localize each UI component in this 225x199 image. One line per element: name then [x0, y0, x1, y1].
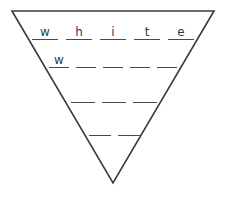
pyramid-row-3 [66, 85, 161, 103]
letter-slot[interactable]: t [134, 22, 160, 40]
slot-letter: e [177, 26, 184, 40]
letter-slot[interactable]: w [49, 50, 69, 68]
slot-letter: w [40, 26, 50, 40]
letter-slot[interactable] [157, 50, 177, 68]
letter-slot[interactable] [130, 50, 150, 68]
blank-line [134, 39, 160, 40]
slot-letter: w [54, 54, 64, 68]
pyramid-row-2: w [45, 50, 181, 68]
letter-slot[interactable]: w [32, 22, 58, 40]
pyramid-row-1: w h i t e [24, 22, 202, 40]
slot-letter: i [111, 26, 114, 40]
blank-line [49, 67, 69, 68]
blank-line [100, 39, 126, 40]
pyramid-row-4 [85, 118, 143, 136]
letter-slot[interactable] [118, 118, 140, 136]
letter-slot[interactable] [89, 118, 111, 136]
letter-slot[interactable]: h [66, 22, 92, 40]
slot-letter: t [145, 26, 150, 40]
letter-slot[interactable] [71, 85, 95, 103]
letter-slot[interactable]: e [168, 22, 194, 40]
blank-line [130, 67, 150, 68]
blank-line [71, 102, 95, 103]
blank-line [102, 102, 126, 103]
blank-line [66, 39, 92, 40]
blank-line [103, 67, 123, 68]
letter-slot[interactable] [133, 85, 157, 103]
blank-line [118, 135, 140, 136]
letter-slot[interactable] [102, 85, 126, 103]
blank-line [157, 67, 177, 68]
word-pyramid-worksheet: w h i t e w [0, 0, 225, 199]
letter-slot[interactable] [76, 50, 96, 68]
blank-line [32, 39, 58, 40]
letter-slot[interactable]: i [100, 22, 126, 40]
slot-letter: h [75, 26, 83, 40]
blank-line [133, 102, 157, 103]
letter-slot[interactable] [103, 50, 123, 68]
blank-line [168, 39, 194, 40]
blank-line [89, 135, 111, 136]
blank-line [76, 67, 96, 68]
